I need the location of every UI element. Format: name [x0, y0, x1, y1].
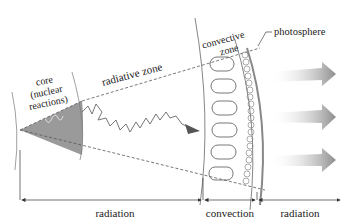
radiative-zone-label: radiative zone	[100, 60, 163, 88]
photosphere-label: photosphere	[274, 26, 326, 37]
photosphere-leader	[258, 32, 272, 46]
outgoing-radiation-arrows	[270, 62, 336, 172]
sun-layers-diagram: core (nuclear reactions) radiative zone …	[0, 0, 353, 224]
scale-label-radiation-right: radiation	[280, 207, 320, 219]
scale-label-radiation-left: radiation	[95, 207, 135, 219]
photon-random-walk	[82, 104, 200, 134]
scale-label-convection: convection	[206, 207, 255, 219]
convection-cells	[209, 57, 237, 180]
